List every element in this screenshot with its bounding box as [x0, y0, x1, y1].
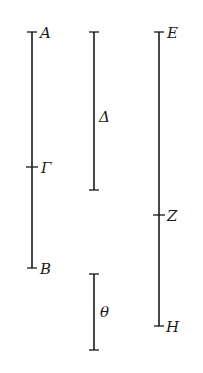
label-z: Z [166, 207, 178, 225]
label-gamma: Γ [40, 159, 52, 177]
segment-ab: A Γ B [26, 24, 52, 278]
label-theta: θ [100, 303, 109, 321]
label-b: B [39, 260, 51, 278]
euclid-line-diagram: A Γ B Δ θ E Z H [0, 0, 203, 373]
label-e: E [166, 24, 178, 42]
label-h: H [165, 318, 180, 336]
segment-theta: θ [89, 274, 109, 350]
segment-eh: E Z H [153, 24, 180, 336]
label-delta: Δ [98, 108, 110, 126]
segment-delta: Δ [89, 32, 110, 190]
label-a: A [38, 24, 51, 42]
